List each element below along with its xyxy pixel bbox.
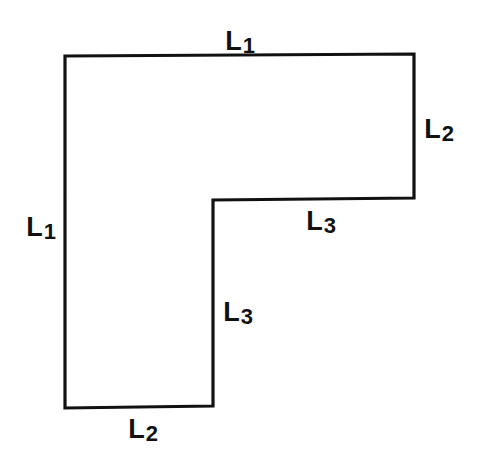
label-inner-vertical-l3: L3 bbox=[223, 299, 253, 328]
label-right-l2: L2 bbox=[424, 116, 454, 145]
label-bottom-l2: L2 bbox=[128, 416, 158, 445]
l-shape-diagram bbox=[0, 0, 485, 459]
label-top-l1: L1 bbox=[225, 28, 255, 57]
label-left-l1: L1 bbox=[26, 214, 56, 243]
label-inner-horizontal-l3: L3 bbox=[306, 208, 336, 237]
l-shape-outline bbox=[65, 54, 414, 408]
